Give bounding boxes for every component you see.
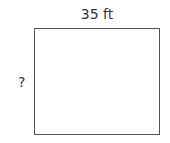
height-label: ?: [18, 74, 25, 90]
width-label: 35 ft: [34, 6, 160, 22]
rectangle-shape: [34, 28, 160, 135]
